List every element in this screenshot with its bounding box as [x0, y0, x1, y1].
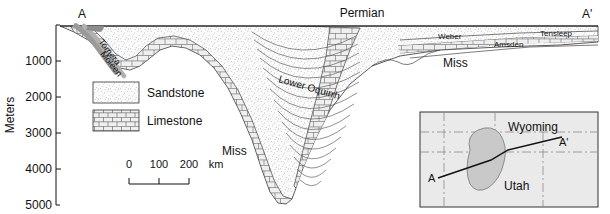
label-weber: Weber: [438, 32, 462, 41]
label-amsden: Amsden: [494, 40, 523, 49]
legend-label-sandstone: Sandstone: [147, 86, 205, 100]
y-axis-ticks: [56, 61, 61, 169]
label-permian: Permian: [340, 6, 385, 20]
y-tick-1000: 1000: [25, 54, 52, 68]
scalebar-tick-200: 200: [180, 158, 198, 170]
inset-label-a: A: [428, 172, 436, 184]
legend-label-limestone: Limestone: [147, 114, 203, 128]
y-tick-5000: 5000: [25, 198, 52, 212]
inset-label-utah: Utah: [504, 179, 529, 193]
scalebar-unit: km: [209, 158, 224, 170]
y-tick-4000: 4000: [25, 162, 52, 176]
inset-label-a-prime: A': [559, 136, 568, 148]
legend: Sandstone Limestone: [93, 82, 205, 131]
inset-map: A A' Wyoming Utah: [420, 112, 598, 207]
legend-swatch-limestone: [93, 110, 139, 131]
cross-section-figure: 1000 2000 3000 4000 5000 Meters: [0, 0, 610, 214]
y-axis-line: [56, 25, 60, 205]
scalebar-rule: [129, 178, 189, 184]
label-tensleep: Tensleep: [540, 29, 573, 38]
scalebar-tick-0: 0: [126, 158, 132, 170]
legend-swatch-sandstone: [93, 82, 139, 103]
label-transect-end: A': [582, 7, 592, 21]
inset-label-wyoming: Wyoming: [508, 120, 558, 134]
y-tick-2000: 2000: [25, 90, 52, 104]
label-transect-start: A: [78, 7, 86, 21]
y-axis-title: Meters: [3, 97, 17, 134]
scale-bar: 0 100 200 km: [126, 158, 223, 184]
y-axis: 1000 2000 3000 4000 5000 Meters: [3, 25, 61, 212]
y-tick-3000: 3000: [25, 126, 52, 140]
label-miss-right: Miss: [443, 56, 468, 70]
figure-root: 1000 2000 3000 4000 5000 Meters: [0, 0, 610, 214]
scalebar-tick-100: 100: [150, 158, 168, 170]
label-miss-lower: Miss: [222, 144, 247, 158]
